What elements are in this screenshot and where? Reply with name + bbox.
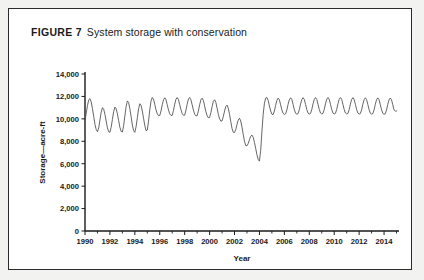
y-axis-tick-label: 4,000: [60, 182, 79, 191]
x-axis-tick-label: 1990: [77, 237, 94, 246]
chart-plot-area: 02,0004,0006,0008,00010,00012,00014,000 …: [9, 9, 413, 271]
x-axis-title: Year: [234, 254, 251, 263]
x-axis-tick-label: 2012: [351, 237, 368, 246]
x-axis-tick-label: 2006: [276, 237, 293, 246]
storage-line-chart: 02,0004,0006,0008,00010,00012,00014,000 …: [9, 9, 413, 271]
y-axis-tick-label: 14,000: [56, 70, 79, 79]
x-axis-tick-label: 1994: [126, 237, 144, 246]
y-axis-tick-label: 2,000: [60, 204, 79, 213]
x-axis-tick-label: 2002: [226, 237, 243, 246]
figure-border: FIGURE 7System storage with conservation…: [8, 8, 412, 270]
y-axis-tick-label: 8,000: [60, 137, 79, 146]
x-axis-tick-label: 1996: [151, 237, 168, 246]
y-axis-tick-label: 10,000: [56, 115, 79, 124]
figure-root: FIGURE 7System storage with conservation…: [0, 0, 424, 280]
y-axis-title: Storage—acre-ft: [38, 121, 47, 184]
x-axis-tick-label: 2014: [376, 237, 394, 246]
storage-series-line: [85, 98, 397, 162]
x-axis-tick-label: 1998: [176, 237, 193, 246]
y-axis-tick-label: 6,000: [60, 160, 79, 169]
y-axis-tick-label: 0: [75, 227, 79, 236]
x-axis-tick-label: 2010: [326, 237, 343, 246]
x-axis-tick-label: 2008: [301, 237, 318, 246]
x-axis-tick-label: 2004: [251, 237, 269, 246]
y-axis-tick-label: 12,000: [56, 92, 79, 101]
x-axis-tick-group: 1990199219941996199820002002200420062008…: [77, 231, 394, 246]
y-axis-tick-group: 02,0004,0006,0008,00010,00012,00014,000: [56, 70, 85, 236]
x-axis-tick-label: 2000: [201, 237, 218, 246]
x-axis-tick-label: 1992: [101, 237, 118, 246]
